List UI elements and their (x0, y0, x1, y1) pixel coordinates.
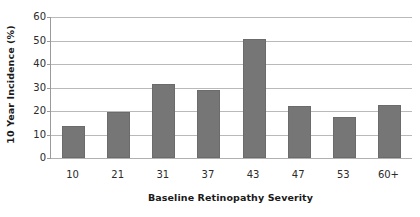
y-tick-label: 10 (20, 130, 46, 140)
bar-chart: 10 Year Incidence (%) 0102030405060 1021… (0, 0, 420, 217)
y-tick-label: 0 (20, 153, 46, 163)
bar-slot (367, 17, 412, 158)
x-axis-title: Baseline Retinopathy Severity (50, 192, 411, 203)
bar-slot (322, 17, 367, 158)
bar-slot (232, 17, 277, 158)
bar[interactable] (107, 112, 130, 158)
bar-slot (277, 17, 322, 158)
bar-slot (141, 17, 186, 158)
x-tick-label: 43 (231, 166, 276, 184)
x-tick-label: 60+ (366, 166, 411, 184)
y-axis-title: 10 Year Incidence (%) (0, 0, 20, 168)
bar[interactable] (243, 39, 266, 158)
bar-slot (96, 17, 141, 158)
bar[interactable] (62, 126, 85, 158)
x-tick-label: 10 (50, 166, 95, 184)
bar[interactable] (197, 90, 220, 158)
plot-area (50, 17, 412, 158)
y-tick-label: 40 (20, 59, 46, 69)
y-tick-label: 50 (20, 36, 46, 46)
x-tick-label: 47 (276, 166, 321, 184)
bar[interactable] (288, 106, 311, 158)
bar-slot (186, 17, 231, 158)
bar[interactable] (333, 117, 356, 158)
x-axis-tick-labels: 1021313743475360+ (50, 166, 411, 184)
x-tick-label: 21 (95, 166, 140, 184)
x-tick-label: 53 (321, 166, 366, 184)
x-tick-label: 31 (140, 166, 185, 184)
bar[interactable] (378, 105, 401, 158)
bar-slot (51, 17, 96, 158)
y-tick-label: 60 (20, 12, 46, 22)
y-axis-tick-labels: 0102030405060 (20, 11, 46, 163)
bar[interactable] (152, 84, 175, 158)
bars-group (51, 17, 412, 158)
y-tick-label: 30 (20, 83, 46, 93)
x-axis-baseline (51, 158, 412, 159)
y-tick-label: 20 (20, 106, 46, 116)
x-tick-label: 37 (185, 166, 230, 184)
y-axis-title-text: 10 Year Incidence (%) (5, 25, 16, 143)
